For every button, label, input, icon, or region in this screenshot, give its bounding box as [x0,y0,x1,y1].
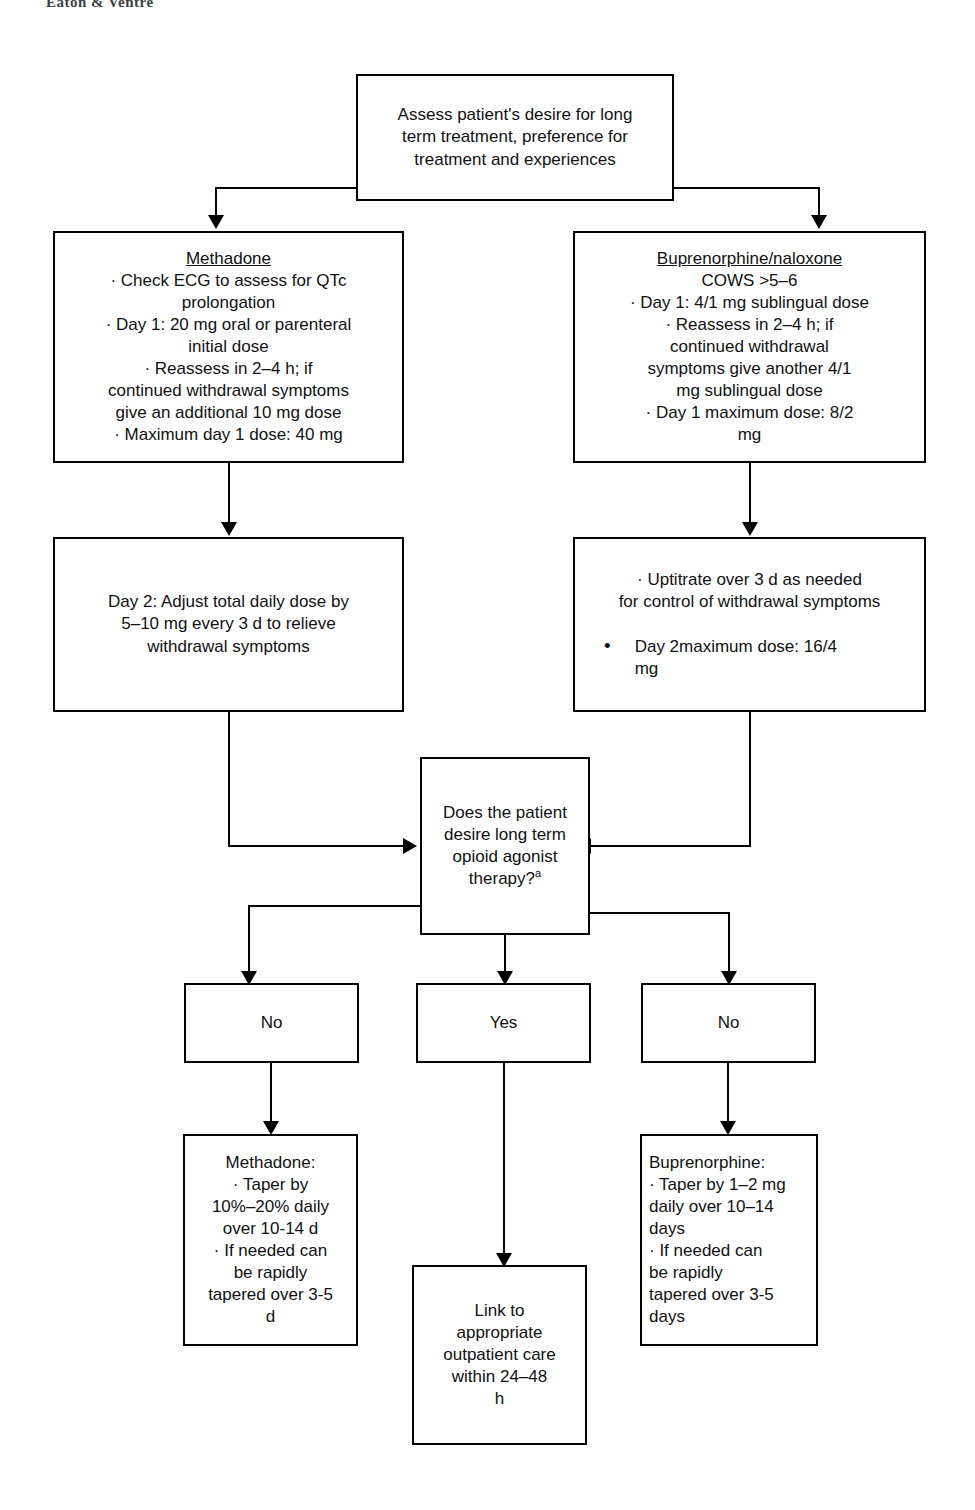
edge-decision-left-vertical [248,905,250,973]
node-answer-no-right: No [641,983,816,1063]
bup-taper-line-5: · If needed can [649,1240,809,1262]
bup-day2-bullet-line-1: Day 2maximum dose: 16/4 [635,637,837,656]
node-decision: Does the patient desire long term opioid… [420,757,590,935]
methadone-taper-line-3: 10%–20% daily [192,1196,349,1218]
edge-no-left-to-taper [270,1063,272,1123]
node-buprenorphine-initiation: Buprenorphine/naloxone COWS >5–6 · Day 1… [573,231,926,463]
edge-decision-center-vertical [504,935,506,973]
node-link-to-outpatient-care: Link to appropriate outpatient care with… [412,1265,587,1445]
methadone-taper-line-2: · Taper by [192,1174,349,1196]
edge-decision-left-horizontal [248,905,422,907]
link-care-line-5: h [421,1388,578,1410]
arrowhead-methadone-day2 [221,522,237,536]
bup-line-6: mg sublingual dose [582,380,917,402]
edge-bup-day2-into-decision [590,845,751,847]
bup-day2-bullet-line-2: mg [635,659,659,678]
methadone-taper-line-7: tapered over 3-5 [192,1284,349,1306]
edge-yes-to-link-care [503,1063,505,1255]
bup-day2-line-2: for control of withdrawal symptoms [582,591,917,613]
answer-no-left-label: No [193,1012,350,1034]
methadone-line-4: initial dose [62,336,395,358]
bup-line-5: symptoms give another 4/1 [582,358,917,380]
node-methadone-day-2: Day 2: Adjust total daily dose by 5–10 m… [53,537,404,712]
bup-line-7: · Day 1 maximum dose: 8/2 [582,402,917,424]
methadone-day2-line-3: withdrawal symptoms [62,636,395,658]
assess-line-2: term treatment, preference for [365,126,665,148]
footnote-marker: a [535,867,541,879]
node-assess: Assess patient's desire for long term tr… [356,74,674,201]
node-buprenorphine-day-2: · Uptitrate over 3 d as needed for contr… [573,537,926,712]
bup-taper-line-1: Buprenorphine: [649,1152,809,1174]
node-methadone-taper: Methadone: · Taper by 10%–20% daily over… [183,1134,358,1346]
methadone-taper-line-8: d [192,1306,349,1328]
bup-line-2: · Day 1: 4/1 mg sublingual dose [582,292,917,314]
methadone-line-6: continued withdrawal symptoms [62,380,395,402]
methadone-line-7: give an additional 10 mg dose [62,402,395,424]
edge-methadone-day2-down [228,712,230,847]
methadone-taper-line-5: · If needed can [192,1240,349,1262]
methadone-line-3: · Day 1: 20 mg oral or parenteral [62,314,395,336]
running-head: Eaton & Ventre [46,0,154,11]
edge-bup-init-to-day2 [749,463,751,524]
link-care-line-2: appropriate [421,1322,578,1344]
link-care-line-4: within 24–48 [421,1366,578,1388]
edge-assess-to-bup-vertical [818,187,820,217]
answer-no-right-label: No [650,1012,807,1034]
methadone-line-5: · Reassess in 2–4 h; if [62,358,395,380]
bup-taper-line-6: be rapidly [649,1262,809,1284]
edge-assess-to-methadone-vertical [215,187,217,217]
link-care-line-1: Link to [421,1300,578,1322]
methadone-taper-line-4: over 10-14 d [192,1218,349,1240]
edge-methadone-day2-into-decision [228,845,408,847]
bup-taper-line-7: tapered over 3-5 [649,1284,809,1306]
bup-taper-line-8: days [649,1306,809,1328]
node-answer-no-left: No [184,983,359,1063]
decision-line-2: desire long term [429,824,581,846]
arrowhead-buprenorphine-taper [720,1121,736,1135]
edge-bup-day2-down [749,712,751,847]
bup-line-3: · Reassess in 2–4 h; if [582,314,917,336]
node-answer-yes: Yes [416,983,591,1063]
methadone-heading: Methadone [62,248,395,270]
arrowhead-methadone-taper [263,1121,279,1135]
methadone-taper-line-1: Methadone: [192,1152,349,1174]
assess-line-3: treatment and experiences [365,149,665,171]
decision-line-3: opioid agonist [429,846,581,868]
edge-decision-right-vertical [728,912,730,973]
bup-taper-line-4: days [649,1218,809,1240]
edge-assess-to-methadone-horizontal [215,187,358,189]
arrowhead-decision-left [403,838,417,854]
edge-decision-right-horizontal [588,912,730,914]
decision-line-1: Does the patient [429,802,581,824]
methadone-line-8: · Maximum day 1 dose: 40 mg [62,424,395,446]
decision-line-4: therapy? [469,869,535,888]
arrowhead-to-buprenorphine [811,215,827,229]
answer-yes-label: Yes [425,1012,582,1034]
methadone-line-2: prolongation [62,292,395,314]
flowchart-canvas: Eaton & Ventre Assess patient's desire f… [0,0,975,1510]
methadone-day2-line-1: Day 2: Adjust total daily dose by [62,591,395,613]
buprenorphine-heading: Buprenorphine/naloxone [582,248,917,270]
edge-methadone-init-to-day2 [228,463,230,524]
bup-day2-line-1: · Uptitrate over 3 d as needed [582,569,917,591]
bup-taper-line-3: daily over 10–14 [649,1196,809,1218]
methadone-line-1: · Check ECG to assess for QTc [62,270,395,292]
link-care-line-3: outpatient care [421,1344,578,1366]
arrowhead-to-methadone [208,215,224,229]
methadone-taper-line-6: be rapidly [192,1262,349,1284]
methadone-day2-line-2: 5–10 mg every 3 d to relieve [62,613,395,635]
bullet-glyph: • [604,636,611,655]
arrowhead-bup-day2 [742,522,758,536]
bup-line-8: mg [582,424,917,446]
node-methadone-initiation: Methadone · Check ECG to assess for QTc … [53,231,404,463]
bup-taper-line-2: · Taper by 1–2 mg [649,1174,809,1196]
bup-line-4: continued withdrawal [582,336,917,358]
edge-assess-to-bup-horizontal [672,187,820,189]
assess-line-1: Assess patient's desire for long [365,104,665,126]
edge-no-right-to-taper [727,1063,729,1123]
node-buprenorphine-taper: Buprenorphine: · Taper by 1–2 mg daily o… [640,1134,818,1346]
bup-line-1: COWS >5–6 [582,270,917,292]
